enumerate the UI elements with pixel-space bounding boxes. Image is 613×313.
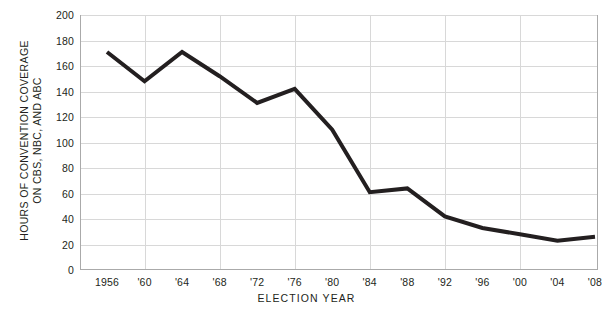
x-tick-label: 1956: [95, 276, 119, 288]
y-tick-label: 200: [44, 9, 74, 21]
data-series-line: [107, 52, 595, 241]
x-tick-label: '08: [588, 276, 602, 288]
x-tick-label: '80: [325, 276, 339, 288]
x-tick-label: '96: [475, 276, 489, 288]
x-tick-label: '04: [550, 276, 564, 288]
y-tick-label: 180: [44, 35, 74, 47]
x-tick-label: '60: [137, 276, 151, 288]
y-axis-tick-labels: 020406080100120140160180200: [40, 0, 74, 280]
y-tick-label: 140: [44, 86, 74, 98]
x-tick-label: '88: [400, 276, 414, 288]
y-tick-label: 160: [44, 60, 74, 72]
y-tick-label: 120: [44, 111, 74, 123]
y-axis-title-line-1: HOURS OF CONVENTION COVERAGE: [18, 40, 30, 241]
vertical-gridlines: [146, 15, 521, 270]
y-tick-label: 60: [44, 188, 74, 200]
y-tick-label: 0: [44, 264, 74, 276]
x-tick-label: '84: [363, 276, 377, 288]
plot-svg: [80, 15, 598, 270]
x-axis-title: ELECTION YEAR: [0, 292, 613, 304]
x-tick-label: '72: [250, 276, 264, 288]
y-tick-label: 40: [44, 213, 74, 225]
x-tick-label: '68: [212, 276, 226, 288]
line-chart: ON CBS, NBC, AND ABC HOURS OF CONVENTION…: [0, 0, 613, 313]
y-tick-label: 100: [44, 137, 74, 149]
plot-area: [80, 15, 598, 270]
y-tick-label: 80: [44, 162, 74, 174]
x-tick-label: '00: [513, 276, 527, 288]
x-axis-tick-labels: 1956'60'64'68'72'76'80'84'88'92'96'00'04…: [80, 272, 598, 290]
x-tick-label: '64: [175, 276, 189, 288]
x-tick-label: '76: [288, 276, 302, 288]
y-tick-label: 20: [44, 239, 74, 251]
x-tick-label: '92: [438, 276, 452, 288]
